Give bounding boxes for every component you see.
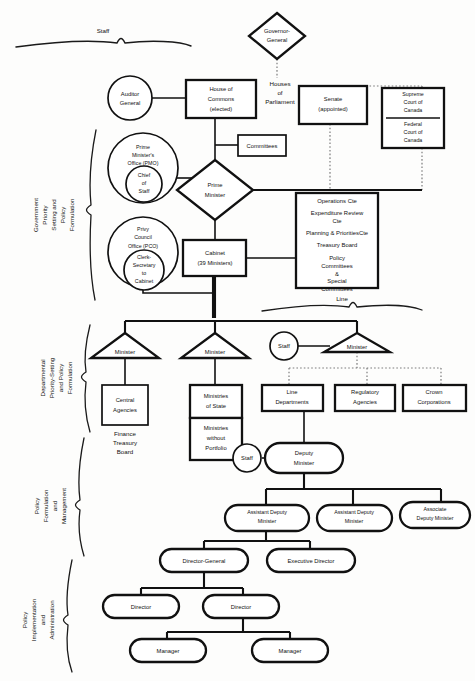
- node-assistant-deputy-minister-1[interactable]: Assistant Deputy Minister: [225, 505, 309, 531]
- node-staff-deputy[interactable]: Staff: [233, 444, 261, 472]
- side-polform-line-1: Formulation: [42, 489, 49, 522]
- node-minister-line[interactable]: Minister: [324, 333, 390, 352]
- node-line-departments[interactable]: Line Departments: [262, 385, 323, 411]
- node-chief-of-staff[interactable]: Chief of Staff: [126, 166, 162, 202]
- node-executive-director[interactable]: Executive Director: [267, 549, 355, 572]
- side-band-departmental-priority: Departmental Priority-Setting and Policy…: [39, 325, 90, 432]
- node-linedept-line-1: Departments: [275, 399, 308, 405]
- node-cabcmte-line-8: &: [335, 271, 339, 277]
- node-adm2-line-0: Assistant Deputy: [334, 509, 374, 515]
- label-houses-of-parliament: Houses of Parliament: [256, 78, 304, 106]
- node-minwp-line-1: without: [206, 435, 226, 441]
- node-assistant-deputy-minister-2[interactable]: Assistant Deputy Minister: [317, 505, 392, 531]
- node-execdir-label: Executive Director: [287, 558, 334, 564]
- node-dg-label: Director-General: [183, 558, 226, 564]
- node-supreme-federal-court[interactable]: Supreme Court of Canada Federal Court of…: [382, 88, 444, 148]
- node-deputy-line-0: Deputy: [295, 450, 313, 456]
- node-supreme-court-line-2: Canada: [404, 107, 423, 113]
- side-polform-line-0: Policy: [33, 497, 40, 514]
- node-cabcmte-line-3: Planning & PrioritiesCte: [306, 230, 369, 236]
- node-federal-court-line-0: Federal: [404, 121, 422, 127]
- node-governor-general-line-1: General: [267, 37, 288, 43]
- node-crown-corporations[interactable]: Crown Corporations: [403, 385, 466, 411]
- label-houses-line-1: of: [277, 89, 282, 96]
- node-senate-line-0: Senate: [324, 96, 342, 102]
- node-cabinet[interactable]: Cabinet (39 Ministers): [183, 240, 246, 276]
- node-prime-minister[interactable]: Prime Minister: [177, 160, 253, 220]
- node-governor-general[interactable]: Governor- General: [249, 13, 305, 59]
- node-minstate-line-1: of State: [206, 403, 226, 409]
- side-band-policy-formulation: Policy Formulation and Management: [33, 438, 84, 556]
- node-minwp-line-0: Ministries: [204, 425, 229, 431]
- node-regulatory-agencies[interactable]: Regulatory Agencies: [335, 385, 395, 411]
- node-director-2[interactable]: Director: [203, 595, 279, 618]
- node-manager-2[interactable]: Manager: [252, 639, 328, 662]
- node-crown-line-0: Crown: [426, 389, 443, 395]
- node-minstate-line-0: Ministries: [204, 393, 229, 399]
- label-finance-line-1: Treasury: [113, 439, 138, 446]
- node-deputy-minister[interactable]: Deputy Minister: [265, 443, 343, 473]
- node-clerk-line-1: Secretary: [133, 262, 156, 268]
- node-supreme-court-line-0: Supreme: [402, 91, 424, 97]
- node-associate-deputy-minister[interactable]: Associate Deputy Minister: [400, 502, 470, 528]
- node-adm2-line-1: Minister: [345, 518, 364, 524]
- node-central-line-1: Agencies: [113, 407, 137, 413]
- node-manager-1[interactable]: Manager: [130, 639, 206, 662]
- side-gov-line-2: Setting and: [50, 199, 57, 231]
- side-dept-line-3: Formulation: [66, 361, 73, 394]
- node-governor-general-line-0: Governor-: [264, 28, 290, 34]
- node-pco-line-0: Privy: [137, 226, 149, 232]
- node-cabcmte-line-0: Operations Cte: [317, 198, 357, 204]
- node-minister-state[interactable]: Minister: [181, 333, 249, 358]
- node-pm-line-1: Minister: [205, 192, 225, 198]
- side-polform-line-3: Management: [60, 488, 67, 524]
- node-ministries-of-state[interactable]: Ministries of State: [190, 385, 242, 418]
- node-cabcmte-line-6: Policy: [329, 255, 345, 261]
- node-director-general[interactable]: Director-General: [160, 549, 248, 572]
- node-layer: Staff Line Governor- General Houses of P…: [0, 0, 475, 681]
- node-cabcmte-line-2: Cte: [332, 218, 342, 224]
- brace-staff: Staff: [16, 27, 191, 47]
- side-dept-line-2: and Policy: [57, 363, 64, 392]
- node-senate-line-1: (appointed): [318, 106, 347, 112]
- node-adm1-line-0: Assistant Deputy: [247, 509, 287, 515]
- node-pmo-line-0: Prime: [136, 144, 150, 150]
- node-clerk-line-0: Clerk-: [137, 254, 151, 260]
- node-auditor-general-line-1: General: [120, 100, 141, 106]
- node-linedept-line-0: Line: [287, 389, 298, 395]
- node-house-of-commons[interactable]: House of Commons (elected): [186, 80, 256, 118]
- node-cabcmte-line-4: Treasury Board: [317, 242, 357, 248]
- side-polform-line-2: and: [51, 500, 58, 511]
- side-polimpl-line-3: Administration: [48, 600, 55, 640]
- brace-line-label: Line: [336, 295, 348, 302]
- node-cabinet-committees[interactable]: Operations Cte Expenditure Review Cte Pl…: [296, 193, 378, 292]
- node-auditor-general[interactable]: Auditor General: [108, 76, 152, 120]
- node-staff-minister[interactable]: Staff: [270, 332, 298, 360]
- node-min1-label: Minister: [115, 349, 135, 355]
- node-deputy-line-1: Minister: [294, 460, 314, 466]
- node-mgr1-label: Manager: [157, 648, 180, 654]
- node-staff-deputy-label: Staff: [241, 455, 253, 461]
- node-clerk-secretary[interactable]: Clerk- Secretary to Cabinet: [124, 250, 164, 290]
- node-crown-line-1: Corporations: [417, 399, 450, 405]
- node-senate[interactable]: Senate (appointed): [299, 86, 367, 124]
- side-polimpl-line-0: Policy: [21, 611, 28, 628]
- side-dept-line-0: Departmental: [39, 359, 46, 396]
- brace-line: Line: [262, 295, 422, 311]
- node-min3-label: Minister: [347, 344, 367, 350]
- node-chief-line-0: Chief: [138, 172, 151, 178]
- node-commons-line-1: Commons: [208, 96, 235, 102]
- side-dept-line-1: Priority-Setting: [48, 357, 55, 398]
- node-dir1-label: Director: [131, 604, 151, 610]
- node-committees[interactable]: Committees: [238, 135, 286, 156]
- node-central-agencies[interactable]: Central Agencies: [102, 385, 148, 425]
- node-chief-line-1: of: [142, 180, 147, 186]
- node-federal-court-line-2: Canada: [404, 137, 423, 143]
- side-polimpl-line-2: and: [39, 614, 46, 625]
- node-staff-min-label: Staff: [278, 343, 290, 349]
- side-band-policy-implementation: Policy Implementation and Administration: [21, 560, 72, 672]
- node-clerk-line-2: to: [142, 270, 146, 276]
- node-director-1[interactable]: Director: [103, 595, 179, 618]
- node-minister-central[interactable]: Minister: [91, 333, 159, 358]
- node-min2-label: Minister: [205, 349, 225, 355]
